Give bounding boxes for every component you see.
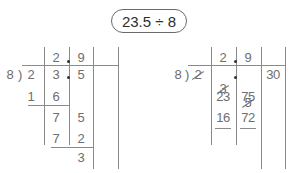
grid-line [44,47,45,145]
subtraction-line [215,128,231,129]
quotient-digit: 2 [213,51,233,65]
step-digit: 5 [71,111,91,125]
decimal-point [234,60,237,63]
grid-line [285,47,286,169]
struck-dividend-digit: 2 [188,68,208,82]
dividend-digit: 2 [21,68,41,82]
decimal-point [234,76,237,79]
subtraction-line [28,105,70,106]
decimal-point [67,60,70,63]
dividend-digit: 5 [71,68,91,82]
grid-line [118,47,119,169]
step-digit: 2 [71,132,91,146]
division-bar [22,65,118,66]
remainder: 3 [71,151,91,165]
subtraction-line [51,147,94,148]
quotient-digit: 9 [238,51,258,65]
step-digit: 7 [46,111,66,125]
step-digit: 6 [46,90,66,104]
problem-title: 23.5 ÷ 8 [111,9,187,33]
row-value: 16 [212,111,234,125]
quotient-digit: 2 [46,51,66,65]
row-value: 72 [237,111,259,125]
dividend-digit: 3 [46,68,66,82]
row-value: 23 [212,90,234,104]
step-digit: 7 [46,132,66,146]
quotient-digit: 9 [71,51,91,65]
subtraction-line [240,128,256,129]
row-value: 75 [237,90,259,104]
step-digit: 1 [21,90,41,104]
decimal-point [67,76,70,79]
divisor: 8 [0,68,20,82]
extra-value: 30 [262,68,284,82]
division-bar [188,65,285,66]
